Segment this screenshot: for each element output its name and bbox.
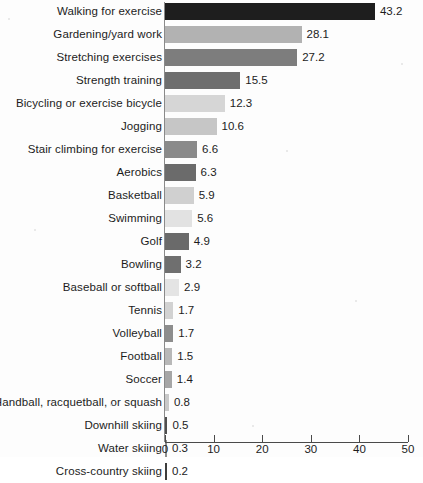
bar-row: Stretching exercises27.2 [0, 46, 423, 69]
category-label: Water skiing [98, 437, 162, 460]
bar [165, 279, 179, 296]
bar-row: Basketball5.9 [0, 184, 423, 207]
x-axis-tick-label: 20 [256, 443, 269, 455]
category-label: Baseball or softball [63, 276, 162, 299]
bar [165, 325, 173, 342]
bar-value-label: 1.4 [177, 368, 193, 391]
category-label: Stretching exercises [56, 46, 162, 69]
bar [165, 164, 196, 181]
category-label: Soccer [126, 368, 162, 391]
bar-rows: Walking for exercise43.2Gardening/yard w… [0, 0, 423, 483]
bar-value-label: 5.6 [197, 207, 213, 230]
category-label: Tennis [128, 299, 162, 322]
bar [165, 210, 192, 227]
bar-track: 28.1 [165, 23, 415, 46]
category-label: Stair climbing for exercise [28, 138, 162, 161]
bar [165, 72, 240, 89]
bar-track: 15.5 [165, 69, 415, 92]
bar-row: Football1.5 [0, 345, 423, 368]
bar-track: 1.7 [165, 322, 415, 345]
category-label: Volleyball [112, 322, 162, 345]
bar-row: Bicycling or exercise bicycle12.3 [0, 92, 423, 115]
bar [165, 95, 225, 112]
bar-row: Aerobics6.3 [0, 161, 423, 184]
bar-track: 12.3 [165, 92, 415, 115]
category-label: Jogging [121, 115, 162, 138]
category-label: Gardening/yard work [53, 23, 162, 46]
bar-value-label: 2.9 [184, 276, 200, 299]
bar-track: 5.6 [165, 207, 415, 230]
bar-value-label: 1.7 [178, 322, 194, 345]
bar [165, 302, 173, 319]
bar-value-label: 0.3 [172, 437, 188, 460]
bar-row: Volleyball1.7 [0, 322, 423, 345]
bar-value-label: 15.5 [245, 69, 267, 92]
bar-row: Bowling3.2 [0, 253, 423, 276]
bar-value-label: 0.5 [172, 414, 188, 437]
bar [165, 394, 169, 411]
bar-track: 2.9 [165, 276, 415, 299]
x-axis-tick-label: 40 [353, 443, 366, 455]
bar [165, 348, 172, 365]
bar-value-label: 1.7 [178, 299, 194, 322]
bar [165, 26, 302, 43]
bar-row: Tennis1.7 [0, 299, 423, 322]
x-axis-tick [311, 435, 312, 442]
bar [165, 256, 181, 273]
x-axis-tick-label: 50 [402, 443, 415, 455]
category-label: Swimming [108, 207, 162, 230]
bar-value-label: 28.1 [307, 23, 329, 46]
bar-track: 0.3 [165, 437, 415, 460]
bar-value-label: 1.5 [177, 345, 193, 368]
x-axis-tick-label: 30 [304, 443, 317, 455]
bar-value-label: 6.6 [202, 138, 218, 161]
x-axis-tick [359, 435, 360, 442]
bar-row: Strength training15.5 [0, 69, 423, 92]
bar-row: Golf4.9 [0, 230, 423, 253]
bar-value-label: 0.2 [172, 460, 188, 483]
bar-row: Baseball or softball2.9 [0, 276, 423, 299]
bar [165, 141, 197, 158]
bar-value-label: 27.2 [302, 46, 324, 69]
bar-row: Swimming5.6 [0, 207, 423, 230]
category-label: Downhill skiing [84, 414, 162, 437]
bar-track: 5.9 [165, 184, 415, 207]
x-axis-tick-label: 0 [162, 443, 168, 455]
bar [165, 49, 297, 66]
bar-track: 1.4 [165, 368, 415, 391]
bar [165, 463, 167, 480]
bar-row: Soccer1.4 [0, 368, 423, 391]
bar-track: 1.7 [165, 299, 415, 322]
x-axis-tick [165, 435, 166, 442]
category-label: Cross-country skiing [56, 460, 162, 483]
category-label: Bicycling or exercise bicycle [16, 92, 162, 115]
bar-row: Gardening/yard work28.1 [0, 23, 423, 46]
bar-value-label: 3.2 [186, 253, 202, 276]
bar-row: Handball, racquetball, or squash0.8 [0, 391, 423, 414]
category-label: Golf [141, 230, 163, 253]
bar-track: 0.5 [165, 414, 415, 437]
x-axis-tick [214, 435, 215, 442]
bar-value-label: 12.3 [230, 92, 252, 115]
bar [165, 233, 189, 250]
bar-track: 6.6 [165, 138, 415, 161]
bar-row: Downhill skiing0.5 [0, 414, 423, 437]
bar-value-label: 6.3 [201, 161, 217, 184]
category-label: Basketball [108, 184, 162, 207]
bar [165, 187, 194, 204]
bar [165, 417, 167, 434]
bar-row: Cross-country skiing0.2 [0, 460, 423, 483]
category-label: Football [120, 345, 162, 368]
bar-track: 0.2 [165, 460, 415, 483]
bar-row: Jogging10.6 [0, 115, 423, 138]
bar-track: 10.6 [165, 115, 415, 138]
category-label: Handball, racquetball, or squash [0, 391, 162, 414]
x-axis-tick [262, 435, 263, 442]
x-axis-tick-label: 10 [207, 443, 220, 455]
bar-track: 4.9 [165, 230, 415, 253]
bar-value-label: 0.8 [174, 391, 190, 414]
bar-row: Stair climbing for exercise6.6 [0, 138, 423, 161]
bar-track: 0.8 [165, 391, 415, 414]
bar-track: 6.3 [165, 161, 415, 184]
